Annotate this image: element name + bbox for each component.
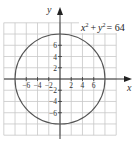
x-tick-label: −4 [34,81,42,90]
y-tick-label: −2 [49,86,57,95]
circle-graph: −6−4−2246 642−2−4−6 x y x2+y2= 64 [0,0,139,146]
y-tick-label: −4 [49,97,57,106]
x-tick-label: 4 [81,81,85,90]
y-tick-label: 6 [53,41,57,50]
x-tick-label: −6 [22,81,30,90]
x-tick-labels: −6−4−2246 [22,81,96,90]
equation-label: x2+y2= 64 [79,20,138,33]
y-tick-label: −6 [49,109,57,118]
y-axis-label: y [46,4,52,15]
x-tick-label: 2 [69,81,73,90]
y-tick-label: 2 [53,64,57,73]
y-axis-arrow-icon [57,7,63,15]
y-tick-label: 4 [53,53,57,62]
x-axis-label: x [126,82,132,93]
x-tick-label: 6 [92,81,96,90]
